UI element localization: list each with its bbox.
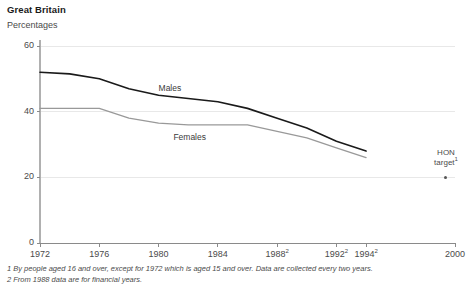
footnote-2: 2 From 1988 data are for financial years… [7, 275, 373, 286]
x-axis-tick-label: 1980 [149, 249, 169, 259]
y-axis-tick-label: 0 [12, 237, 34, 247]
y-axis-tick-label: 40 [12, 106, 34, 116]
x-axis-tick-label: 1984 [208, 249, 228, 259]
x-axis-tick-label: 2000 [445, 249, 465, 259]
gridlines [40, 46, 455, 243]
x-axis-tick-label: 19882 [265, 249, 288, 259]
footnote-1: 1 By people aged 16 and over, except for… [7, 264, 373, 275]
chart-container: Great Britain Percentages 0204060 197219… [0, 0, 468, 292]
series-lines [40, 72, 366, 157]
series-label-males: Males [159, 83, 182, 93]
chart-footnotes: 1 By people aged 16 and over, except for… [7, 264, 373, 285]
chart-plot-area [0, 0, 468, 292]
series-label-females: Females [173, 132, 206, 142]
x-axis-tick-label: 19922 [325, 249, 348, 259]
hon-target-annotation: HONtarget1 [429, 148, 463, 168]
y-axis-tick-label: 20 [12, 171, 34, 181]
y-axis-tick-label: 60 [12, 40, 34, 50]
hon-target-line2: target1 [429, 158, 463, 168]
axis-ticks [37, 46, 455, 247]
axes [40, 40, 455, 243]
x-axis-tick-label: 1972 [30, 249, 50, 259]
hon-target-dot-icon [444, 176, 447, 179]
x-axis-tick-label: 1976 [89, 249, 109, 259]
x-axis-tick-label: 19942 [354, 249, 377, 259]
